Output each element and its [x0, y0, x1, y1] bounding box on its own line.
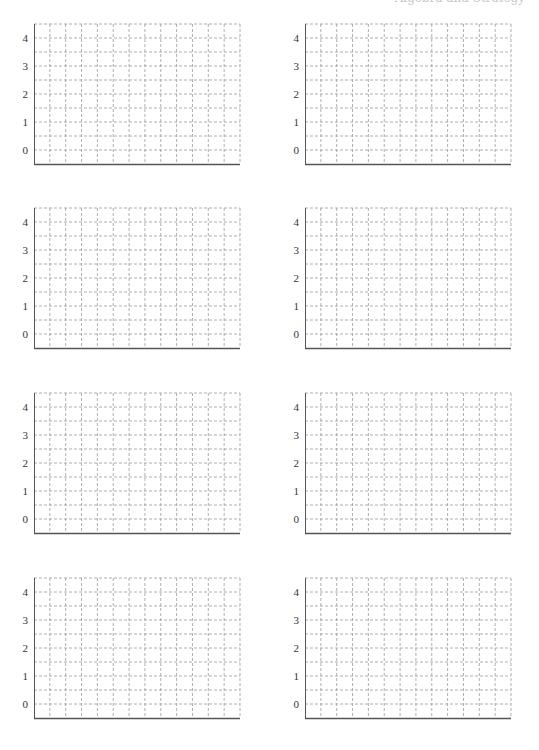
y-tick-label: 3	[285, 429, 299, 441]
y-tick-label: 3	[14, 244, 28, 256]
plot-area	[305, 208, 511, 348]
plot-area	[305, 24, 511, 164]
clipped-header-text: Algebra and Strategy	[395, 0, 525, 5]
y-tick-label: 4	[285, 586, 299, 598]
y-tick-label: 2	[285, 272, 299, 284]
plot-area	[34, 578, 240, 718]
y-tick-label: 2	[14, 457, 28, 469]
plot-area	[305, 578, 511, 718]
y-tick-label: 0	[285, 328, 299, 340]
y-tick-label: 4	[14, 216, 28, 228]
y-tick-label: 2	[285, 88, 299, 100]
y-tick-label: 1	[14, 485, 28, 497]
y-tick-label: 2	[285, 642, 299, 654]
y-tick-label: 4	[14, 586, 28, 598]
y-tick-label: 0	[285, 513, 299, 525]
grid-lines	[34, 24, 241, 166]
y-tick-label: 1	[285, 116, 299, 128]
plot-area	[34, 208, 240, 348]
y-tick-label: 1	[285, 485, 299, 497]
y-tick-label: 1	[14, 300, 28, 312]
y-tick-label: 0	[14, 698, 28, 710]
grid-lines	[34, 393, 241, 535]
y-tick-label: 0	[14, 513, 28, 525]
y-tick-label: 4	[285, 32, 299, 44]
grid-lines	[305, 393, 512, 535]
grid-lines	[305, 24, 512, 166]
y-tick-label: 1	[14, 116, 28, 128]
y-tick-label: 2	[14, 272, 28, 284]
y-tick-label: 0	[14, 144, 28, 156]
y-tick-label: 2	[14, 88, 28, 100]
y-tick-label: 4	[14, 32, 28, 44]
y-tick-label: 0	[285, 698, 299, 710]
y-tick-label: 4	[285, 401, 299, 413]
plot-area	[34, 24, 240, 164]
y-tick-label: 4	[285, 216, 299, 228]
grid-lines	[305, 208, 512, 350]
y-tick-label: 1	[285, 300, 299, 312]
plot-area	[34, 393, 240, 533]
y-tick-label: 3	[285, 244, 299, 256]
grid-lines	[34, 208, 241, 350]
y-tick-label: 3	[285, 60, 299, 72]
y-tick-label: 0	[14, 328, 28, 340]
y-tick-label: 0	[285, 144, 299, 156]
grid-lines	[305, 578, 512, 720]
y-tick-label: 3	[14, 614, 28, 626]
y-tick-label: 2	[14, 642, 28, 654]
y-tick-label: 3	[14, 60, 28, 72]
y-tick-label: 1	[14, 670, 28, 682]
y-tick-label: 3	[14, 429, 28, 441]
y-tick-label: 3	[285, 614, 299, 626]
y-tick-label: 2	[285, 457, 299, 469]
plot-area	[305, 393, 511, 533]
y-tick-label: 1	[285, 670, 299, 682]
y-tick-label: 4	[14, 401, 28, 413]
grid-lines	[34, 578, 241, 720]
